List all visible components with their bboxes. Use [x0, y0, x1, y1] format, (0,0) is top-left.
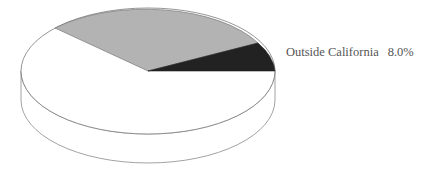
pie-chart [0, 0, 425, 172]
slice-label-name: Outside California [286, 45, 379, 59]
slice-label-outside-california: Outside California8.0% [286, 45, 414, 60]
slice-label-percent: 8.0% [388, 45, 414, 59]
